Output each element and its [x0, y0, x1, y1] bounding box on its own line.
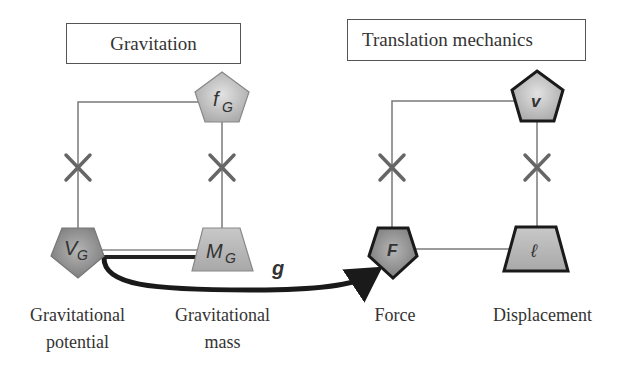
svg-text:ℓ: ℓ: [530, 241, 538, 261]
label-line: Force: [350, 302, 440, 329]
label-displacement: Displacement: [475, 302, 610, 329]
node-f[interactable]: F: [369, 228, 417, 278]
label-line: potential: [10, 329, 145, 356]
label-line: Displacement: [475, 302, 610, 329]
node-vg[interactable]: V G: [51, 228, 104, 278]
translation-title: Translation mechanics: [362, 29, 533, 51]
svg-text:G: G: [77, 247, 88, 263]
svg-text:M: M: [206, 240, 223, 262]
svg-text:F: F: [387, 241, 398, 260]
label-gravitational-potential: Gravitational potential: [10, 302, 145, 356]
label-line: Gravitational: [155, 302, 290, 329]
gravitation-title-box: Gravitation: [66, 23, 241, 64]
svg-text:G: G: [225, 250, 236, 266]
svg-text:G: G: [222, 99, 233, 115]
label-force: Force: [350, 302, 440, 329]
gravitation-title: Gravitation: [110, 33, 197, 55]
label-line: Gravitational: [10, 302, 145, 329]
g-arrow-label: g: [271, 257, 284, 279]
translation-title-box: Translation mechanics: [347, 19, 586, 61]
svg-text:v: v: [531, 92, 542, 111]
node-l[interactable]: ℓ: [504, 227, 568, 271]
node-mg[interactable]: M G: [192, 228, 253, 271]
label-gravitational-mass: Gravitational mass: [155, 302, 290, 356]
vg-mg-link: [100, 250, 200, 257]
label-line: mass: [155, 329, 290, 356]
node-fg[interactable]: f G: [195, 72, 249, 122]
left-panel-lines: [78, 102, 222, 228]
node-v[interactable]: v: [512, 71, 563, 121]
